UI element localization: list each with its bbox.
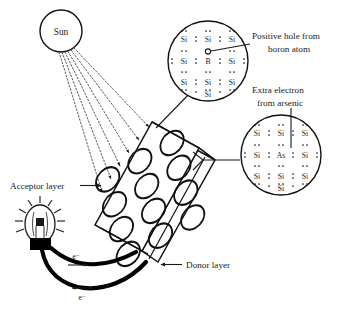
positive-hole-label-line1: Positive hole from — [252, 31, 320, 41]
lattice-bottom-atom: Si — [302, 172, 308, 181]
positive-hole-marker — [205, 49, 210, 54]
wire-upper — [51, 248, 136, 264]
light-bulb-group — [15, 196, 65, 250]
sun-group: Sun — [40, 10, 82, 52]
electron-label-top: e⁻ — [72, 252, 79, 261]
lattice-top-atom: Si — [229, 78, 235, 87]
lattice-top-bottom-atom: Si — [205, 90, 211, 99]
lattice-bottom-atom: Si — [254, 151, 260, 160]
sun-label: Sun — [54, 27, 69, 37]
lattice-bottom-group: Si Si Si Si As Si Si Si Si Si — [241, 85, 321, 195]
lattice-top-atom: Si — [229, 35, 235, 44]
sun-ray-5 — [62, 52, 111, 179]
lattice-bottom-atom: Si — [302, 151, 308, 160]
lattice-bottom-dopant: As — [277, 151, 285, 160]
solar-cell-diagram: Sun — [0, 0, 344, 320]
lattice-top-atom: Si — [229, 57, 235, 66]
bulb-filament — [36, 218, 44, 226]
acceptor-layer-callout: Acceptor layer — [10, 181, 101, 191]
positive-hole-label-line2: boron atom — [268, 44, 310, 54]
donor-layer-label: Donor layer — [186, 260, 230, 270]
lattice-bottom-atom: Si — [302, 129, 308, 138]
bulb-base — [30, 238, 51, 250]
diagram-canvas: Sun — [0, 0, 344, 320]
lattice-top-atom: Si — [181, 57, 187, 66]
sun-ray-4 — [65, 52, 120, 166]
lattice-bottom-atom: Si — [254, 129, 260, 138]
acceptor-layer-label: Acceptor layer — [10, 181, 64, 191]
solar-panel-slab — [73, 122, 228, 271]
lattice-bottom-atom: Si — [278, 172, 284, 181]
lattice-bottom-atom: Si — [254, 172, 260, 181]
electron-label-bottom: e⁻ — [78, 293, 85, 302]
lattice-top-atom: Si — [205, 35, 211, 44]
circuit-wires-group — [42, 248, 146, 288]
leader-to-top-lattice — [156, 92, 191, 128]
lattice-top-dopant: B — [205, 57, 210, 66]
donor-layer-callout: Donor layer — [161, 260, 230, 270]
lattice-top-atom: Si — [181, 78, 187, 87]
lattice-bottom-atom: Si — [278, 129, 284, 138]
sun-ray-3 — [68, 52, 129, 154]
lattice-top-atom: Si — [205, 78, 211, 87]
extra-electron-label-line2: from arsenic — [257, 98, 303, 108]
sun-ray-2 — [71, 50, 139, 140]
sun-ray-1 — [74, 48, 149, 127]
lattice-top-atom: Si — [181, 35, 187, 44]
lattice-bottom-bottom-atom: Si — [278, 184, 284, 193]
extra-electron-label-line1: Extra electron — [252, 85, 304, 95]
